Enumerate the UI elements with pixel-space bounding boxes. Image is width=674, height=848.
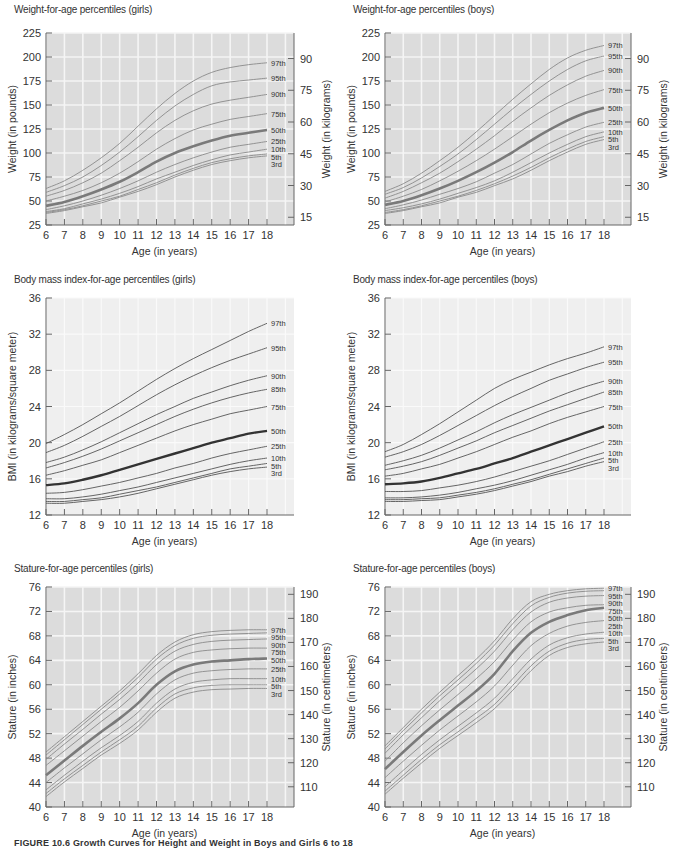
right-y-tick-label: 130: [300, 733, 318, 745]
y-tick-label: 12: [368, 509, 380, 521]
y-tick-label: 175: [362, 75, 380, 87]
y-tick-label: 16: [368, 473, 380, 485]
x-tick-label: 10: [114, 229, 126, 241]
y-tick-label: 16: [29, 473, 41, 485]
right-y-tick-label: 140: [300, 709, 318, 721]
y-tick-label: 125: [23, 123, 41, 135]
y-tick-label: 28: [29, 364, 41, 376]
percentile-label-3rd: 3rd: [608, 143, 619, 152]
x-tick-label: 14: [525, 519, 537, 531]
x-tick-label: 8: [80, 811, 86, 823]
x-tick-label: 8: [418, 811, 424, 823]
x-tick-label: 11: [132, 519, 143, 531]
percentile-label-3rd: 3rd: [271, 160, 282, 169]
y-tick-label: 225: [23, 27, 41, 39]
x-tick-label: 16: [224, 229, 236, 241]
percentile-label-3rd: 3rd: [608, 464, 619, 473]
x-tick-label: 18: [598, 519, 610, 531]
percentile-label-50th: 50th: [608, 422, 623, 431]
right-y-tick-label: 75: [300, 84, 312, 96]
right-y-tick-label: 110: [637, 781, 655, 793]
percentile-label-95th: 95th: [271, 74, 286, 83]
x-tick-label: 9: [98, 811, 104, 823]
percentile-label-90th: 90th: [271, 372, 286, 381]
percentile-label-3rd: 3rd: [271, 690, 282, 699]
right-y-tick-label: 15: [300, 211, 312, 223]
chart-title: Weight-for-age percentiles (girls): [14, 4, 152, 15]
y-tick-label: 76: [29, 581, 41, 593]
y-tick-label: 48: [29, 752, 41, 764]
y-axis-label: BMI (in kilograms/square meter): [345, 332, 357, 481]
y-tick-label: 32: [368, 328, 380, 340]
x-tick-label: 6: [382, 229, 388, 241]
x-tick-label: 8: [418, 229, 424, 241]
right-y-tick-label: 30: [637, 180, 649, 192]
y-tick-label: 100: [362, 147, 380, 159]
x-tick-label: 10: [452, 229, 464, 241]
x-tick-label: 9: [437, 811, 443, 823]
x-tick-label: 11: [132, 229, 143, 241]
right-y-tick-label: 160: [637, 660, 655, 672]
chart-title: Stature-for-age percentiles (boys): [353, 563, 495, 574]
right-y-tick-label: 60: [300, 116, 312, 128]
x-tick-label: 8: [80, 229, 86, 241]
x-tick-label: 14: [525, 229, 537, 241]
y-tick-label: 52: [368, 728, 380, 740]
x-tick-label: 10: [114, 519, 126, 531]
x-tick-label: 18: [598, 229, 610, 241]
x-tick-label: 13: [169, 229, 181, 241]
bmi-girls-chart: 121620242832366789101112131415161718Age …: [6, 292, 294, 547]
y-tick-label: 24: [29, 401, 41, 413]
right-y-tick-label: 150: [637, 685, 655, 697]
weight-boys-chart: 2550751001251501752002256789101112131415…: [345, 27, 669, 257]
percentile-label-50th: 50th: [271, 656, 286, 665]
x-tick-label: 9: [437, 229, 443, 241]
x-tick-label: 7: [61, 811, 67, 823]
x-tick-label: 17: [242, 519, 254, 531]
x-tick-label: 7: [61, 519, 67, 531]
percentile-label-75th: 75th: [271, 110, 286, 119]
percentile-label-25th: 25th: [608, 438, 623, 447]
y-tick-label: 36: [29, 292, 41, 304]
y-tick-label: 56: [368, 703, 380, 715]
x-tick-label: 11: [471, 519, 482, 531]
chart-title: Weight-for-age percentiles (boys): [353, 4, 494, 15]
x-tick-label: 18: [261, 229, 273, 241]
x-tick-label: 16: [561, 229, 573, 241]
y-tick-label: 76: [368, 581, 380, 593]
x-tick-label: 12: [150, 519, 162, 531]
y-tick-label: 56: [29, 703, 41, 715]
x-tick-label: 16: [224, 519, 236, 531]
y-tick-label: 72: [29, 605, 41, 617]
x-tick-label: 9: [437, 519, 443, 531]
x-tick-label: 15: [543, 811, 555, 823]
percentile-label-97th: 97th: [271, 319, 286, 328]
right-y-tick-label: 15: [637, 211, 649, 223]
x-axis-label: Age (in years): [470, 245, 535, 257]
percentile-label-97th: 97th: [271, 59, 286, 68]
x-tick-label: 15: [206, 811, 218, 823]
percentile-label-50th: 50th: [608, 104, 623, 113]
weight-girls-chart: 2550751001251501752002256789101112131415…: [6, 27, 332, 257]
y-tick-label: 72: [368, 605, 380, 617]
y-tick-label: 24: [368, 401, 380, 413]
right-y-tick-label: 140: [637, 709, 655, 721]
x-tick-label: 6: [43, 811, 49, 823]
y-tick-label: 48: [368, 752, 380, 764]
y-axis-label: Stature (in inches): [6, 654, 18, 739]
y-tick-label: 75: [368, 171, 380, 183]
y-tick-label: 60: [29, 679, 41, 691]
y-tick-label: 50: [29, 195, 41, 207]
right-y-axis-label: Weight (in kilograms): [320, 80, 332, 178]
percentile-label-85th: 85th: [608, 388, 623, 397]
x-tick-label: 15: [543, 229, 555, 241]
y-tick-label: 200: [362, 51, 380, 63]
x-tick-label: 17: [580, 229, 592, 241]
x-axis-label: Age (in years): [132, 535, 197, 547]
y-tick-label: 125: [362, 123, 380, 135]
percentile-label-95th: 95th: [608, 358, 623, 367]
percentile-label-3rd: 3rd: [271, 469, 282, 478]
x-tick-label: 16: [224, 811, 236, 823]
percentile-label-90th: 90th: [608, 66, 623, 75]
y-tick-label: 12: [29, 509, 41, 521]
